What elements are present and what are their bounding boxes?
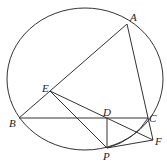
label-a: A bbox=[129, 11, 137, 23]
label-f: F bbox=[154, 135, 162, 147]
geometry-diagram: A B C D E F P bbox=[0, 0, 167, 163]
label-d: D bbox=[102, 106, 111, 118]
arc-pc bbox=[107, 118, 148, 148]
label-b: B bbox=[9, 117, 16, 129]
label-p: P bbox=[102, 150, 110, 162]
segment-pf bbox=[107, 140, 153, 148]
segment-ep bbox=[50, 91, 107, 148]
label-c: C bbox=[149, 112, 157, 124]
label-e: E bbox=[41, 82, 49, 94]
segment-ef bbox=[50, 91, 153, 140]
segment-ab bbox=[19, 24, 127, 118]
